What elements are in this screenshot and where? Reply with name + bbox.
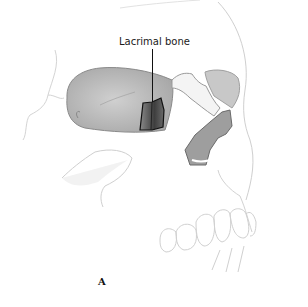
panel-letter: A (98, 276, 106, 287)
leader-line (152, 49, 153, 102)
skull-illustration: Lacrimal bone A (0, 0, 308, 307)
lacrimal-bone-label: Lacrimal bone (119, 36, 190, 47)
maxilla-process (185, 110, 232, 165)
teeth (160, 209, 256, 272)
